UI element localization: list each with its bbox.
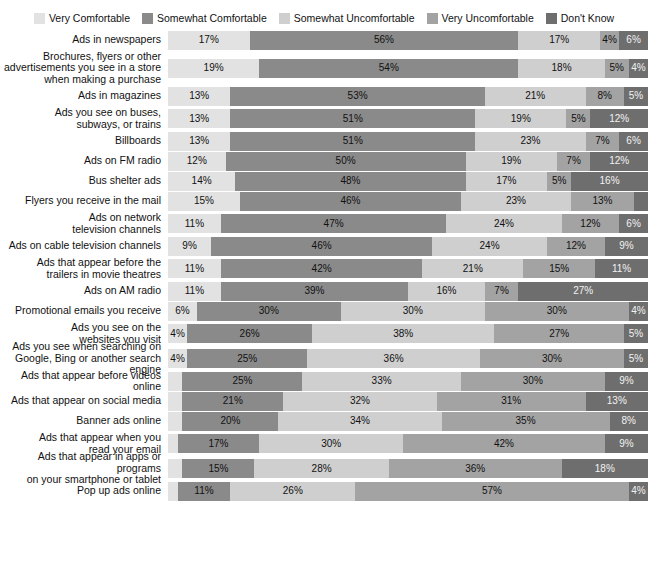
chart-segment-somewhat_uncomfortable[interactable]: 21% bbox=[485, 87, 586, 106]
chart-segment-somewhat_uncomfortable[interactable]: 32% bbox=[283, 392, 437, 411]
chart-segment-somewhat_comfortable[interactable]: 20% bbox=[182, 412, 278, 431]
chart-segment-very_comfortable[interactable]: 3% bbox=[168, 459, 182, 478]
chart-segment-somewhat_uncomfortable[interactable]: 23% bbox=[461, 192, 571, 211]
chart-row-bar[interactable]: 9%46%24%12%9% bbox=[168, 237, 648, 256]
chart-segment-somewhat_uncomfortable[interactable]: 38% bbox=[312, 324, 494, 343]
chart-segment-somewhat_uncomfortable[interactable]: 28% bbox=[254, 459, 388, 478]
chart-row-bar[interactable]: 2%11%26%57%4% bbox=[168, 482, 648, 501]
chart-segment-very_uncomfortable[interactable]: 30% bbox=[461, 372, 605, 391]
chart-segment-somewhat_comfortable[interactable]: 30% bbox=[197, 302, 341, 321]
chart-segment-somewhat_uncomfortable[interactable]: 21% bbox=[422, 259, 523, 278]
chart-row-bar[interactable]: 19%54%18%5%4% bbox=[168, 59, 648, 78]
chart-segment-somewhat_uncomfortable[interactable]: 36% bbox=[307, 349, 480, 368]
chart-segment-dont_know[interactable]: 27% bbox=[518, 282, 648, 301]
chart-segment-somewhat_comfortable[interactable]: 15% bbox=[182, 459, 254, 478]
chart-segment-somewhat_uncomfortable[interactable]: 17% bbox=[518, 31, 600, 50]
legend-item-dont_know[interactable]: Don't Know bbox=[546, 13, 614, 24]
chart-row-bar[interactable]: 14%48%17%5%16% bbox=[168, 172, 648, 191]
chart-segment-somewhat_uncomfortable[interactable]: 23% bbox=[475, 132, 585, 151]
chart-row-bar[interactable]: 15%46%23%13%3% bbox=[168, 192, 648, 211]
chart-segment-very_uncomfortable[interactable]: 12% bbox=[547, 237, 605, 256]
chart-segment-very_uncomfortable[interactable]: 12% bbox=[562, 214, 620, 233]
chart-segment-very_comfortable[interactable]: 2% bbox=[168, 434, 178, 453]
chart-segment-very_uncomfortable[interactable]: 13% bbox=[571, 192, 633, 211]
chart-row-bar[interactable]: 13%51%23%7%6% bbox=[168, 132, 648, 151]
chart-segment-dont_know[interactable]: 11% bbox=[595, 259, 648, 278]
chart-segment-very_uncomfortable[interactable]: 42% bbox=[403, 434, 605, 453]
chart-segment-somewhat_comfortable[interactable]: 56% bbox=[250, 31, 519, 50]
chart-segment-somewhat_uncomfortable[interactable]: 19% bbox=[475, 109, 566, 128]
chart-segment-very_comfortable[interactable]: 13% bbox=[168, 132, 230, 151]
chart-segment-very_comfortable[interactable]: 17% bbox=[168, 31, 250, 50]
chart-segment-very_uncomfortable[interactable]: 30% bbox=[485, 302, 629, 321]
chart-segment-somewhat_comfortable[interactable]: 17% bbox=[178, 434, 260, 453]
chart-segment-very_uncomfortable[interactable]: 35% bbox=[442, 412, 610, 431]
chart-segment-dont_know[interactable]: 12% bbox=[590, 109, 648, 128]
chart-segment-dont_know[interactable]: 9% bbox=[605, 372, 648, 391]
chart-segment-dont_know[interactable]: 6% bbox=[619, 31, 648, 50]
chart-segment-dont_know[interactable]: 12% bbox=[590, 152, 648, 171]
chart-segment-very_uncomfortable[interactable]: 5% bbox=[605, 59, 629, 78]
chart-segment-somewhat_comfortable[interactable]: 46% bbox=[240, 192, 461, 211]
chart-segment-somewhat_uncomfortable[interactable]: 26% bbox=[230, 482, 355, 501]
chart-segment-dont_know[interactable]: 3% bbox=[634, 192, 648, 211]
chart-segment-somewhat_uncomfortable[interactable]: 30% bbox=[341, 302, 485, 321]
chart-segment-very_comfortable[interactable]: 3% bbox=[168, 392, 182, 411]
chart-row-bar[interactable]: 13%53%21%8%5% bbox=[168, 87, 648, 106]
chart-segment-dont_know[interactable]: 6% bbox=[619, 132, 648, 151]
chart-segment-very_comfortable[interactable]: 13% bbox=[168, 109, 230, 128]
chart-segment-very_comfortable[interactable]: 6% bbox=[168, 302, 197, 321]
chart-row-bar[interactable]: 3%15%28%36%18% bbox=[168, 459, 648, 478]
chart-segment-very_comfortable[interactable]: 11% bbox=[168, 259, 221, 278]
chart-segment-very_comfortable[interactable]: 3% bbox=[168, 372, 182, 391]
chart-segment-very_comfortable[interactable]: 12% bbox=[168, 152, 226, 171]
legend-item-very_uncomfortable[interactable]: Very Uncomfortable bbox=[427, 13, 534, 24]
chart-segment-somewhat_comfortable[interactable]: 11% bbox=[178, 482, 231, 501]
chart-row-bar[interactable]: 6%30%30%30%4% bbox=[168, 302, 648, 321]
chart-segment-dont_know[interactable]: 6% bbox=[619, 214, 648, 233]
chart-row-bar[interactable]: 3%21%32%31%13% bbox=[168, 392, 648, 411]
chart-row-bar[interactable]: 12%50%19%7%12% bbox=[168, 152, 648, 171]
chart-segment-very_comfortable[interactable]: 13% bbox=[168, 87, 230, 106]
chart-segment-somewhat_uncomfortable[interactable]: 18% bbox=[518, 59, 604, 78]
chart-row-bar[interactable]: 3%25%33%30%9% bbox=[168, 372, 648, 391]
chart-segment-very_uncomfortable[interactable]: 8% bbox=[586, 87, 624, 106]
chart-segment-very_comfortable[interactable]: 3% bbox=[168, 412, 182, 431]
chart-segment-somewhat_comfortable[interactable]: 46% bbox=[211, 237, 432, 256]
chart-segment-somewhat_comfortable[interactable]: 21% bbox=[182, 392, 283, 411]
chart-segment-dont_know[interactable]: 9% bbox=[605, 237, 648, 256]
chart-segment-very_uncomfortable[interactable]: 36% bbox=[389, 459, 562, 478]
chart-segment-somewhat_comfortable[interactable]: 39% bbox=[221, 282, 408, 301]
chart-row-bar[interactable]: 3%20%34%35%8% bbox=[168, 412, 648, 431]
chart-segment-very_comfortable[interactable]: 11% bbox=[168, 214, 221, 233]
chart-segment-very_uncomfortable[interactable]: 4% bbox=[600, 31, 619, 50]
chart-segment-dont_know[interactable]: 8% bbox=[610, 412, 648, 431]
chart-segment-very_uncomfortable[interactable]: 57% bbox=[355, 482, 629, 501]
chart-row-bar[interactable]: 11%39%16%7%27% bbox=[168, 282, 648, 301]
chart-row-bar[interactable]: 4%26%38%27%5% bbox=[168, 324, 648, 343]
chart-segment-somewhat_uncomfortable[interactable]: 33% bbox=[302, 372, 460, 391]
chart-segment-very_uncomfortable[interactable]: 15% bbox=[523, 259, 595, 278]
chart-segment-very_uncomfortable[interactable]: 7% bbox=[557, 152, 591, 171]
chart-segment-dont_know[interactable]: 5% bbox=[624, 87, 648, 106]
chart-segment-somewhat_uncomfortable[interactable]: 19% bbox=[466, 152, 557, 171]
chart-segment-very_comfortable[interactable]: 15% bbox=[168, 192, 240, 211]
chart-segment-somewhat_comfortable[interactable]: 42% bbox=[221, 259, 423, 278]
chart-row-bar[interactable]: 17%56%17%4%6% bbox=[168, 31, 648, 50]
chart-segment-dont_know[interactable]: 18% bbox=[562, 459, 648, 478]
legend-item-somewhat_uncomfortable[interactable]: Somewhat Uncomfortable bbox=[279, 13, 415, 24]
chart-row-bar[interactable]: 2%17%30%42%9% bbox=[168, 434, 648, 453]
chart-segment-dont_know[interactable]: 5% bbox=[624, 324, 648, 343]
chart-segment-very_uncomfortable[interactable]: 7% bbox=[485, 282, 519, 301]
chart-segment-dont_know[interactable]: 4% bbox=[629, 482, 648, 501]
chart-segment-very_comfortable[interactable]: 4% bbox=[168, 324, 187, 343]
chart-segment-dont_know[interactable]: 5% bbox=[624, 349, 648, 368]
chart-segment-somewhat_comfortable[interactable]: 51% bbox=[230, 132, 475, 151]
chart-segment-somewhat_uncomfortable[interactable]: 24% bbox=[446, 214, 561, 233]
chart-segment-somewhat_uncomfortable[interactable]: 16% bbox=[408, 282, 485, 301]
chart-segment-very_uncomfortable[interactable]: 5% bbox=[547, 172, 571, 191]
chart-segment-somewhat_comfortable[interactable]: 47% bbox=[221, 214, 447, 233]
chart-segment-dont_know[interactable]: 4% bbox=[629, 59, 648, 78]
chart-segment-very_comfortable[interactable]: 14% bbox=[168, 172, 235, 191]
chart-segment-very_uncomfortable[interactable]: 31% bbox=[437, 392, 586, 411]
